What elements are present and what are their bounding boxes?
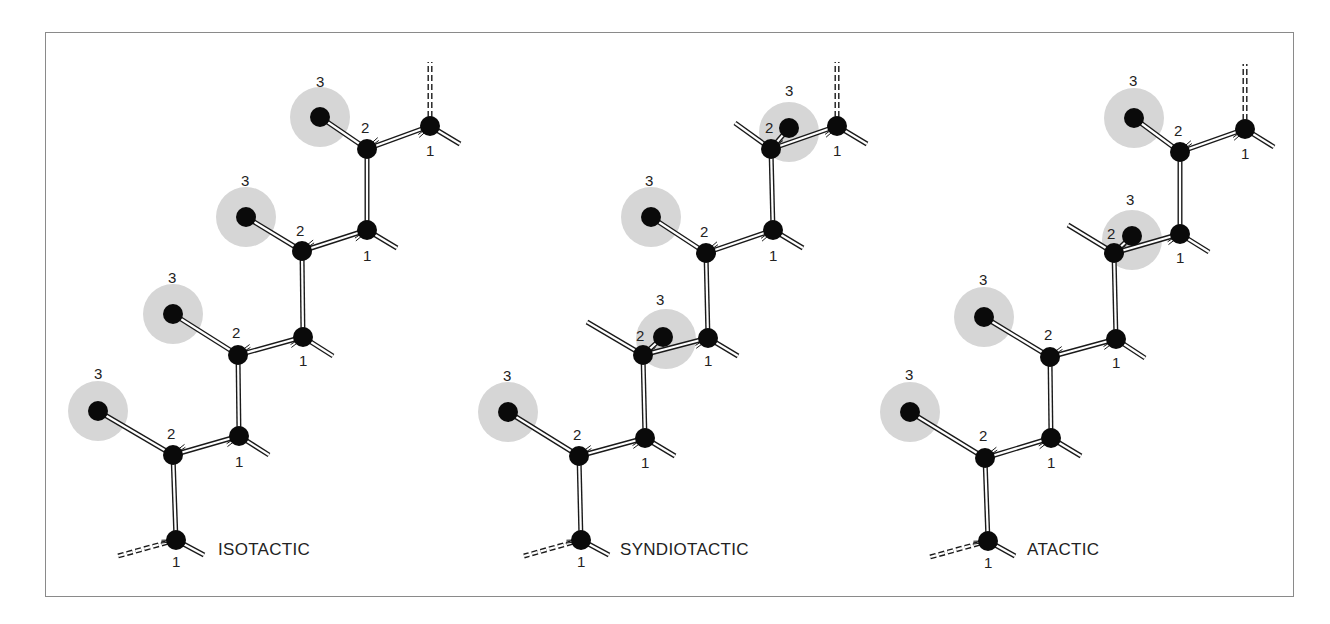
- atom-label-2: 2: [361, 119, 369, 136]
- side-group-atom: [163, 304, 183, 324]
- panel-title: SYNDIOTACTIC: [620, 540, 749, 559]
- backbone-carbon-1: [827, 116, 847, 136]
- backbone-bond: [771, 149, 773, 230]
- backbone-carbon-1: [1170, 224, 1190, 244]
- polymer-tacticity-diagram: 1231231231231ISOTACTIC 1231231231231SYND…: [0, 0, 1330, 624]
- atom-label-1: 1: [1047, 454, 1055, 471]
- atom-label-1: 1: [769, 247, 777, 264]
- atom-label-1: 1: [1176, 249, 1184, 266]
- backbone-carbon-1: [763, 220, 783, 240]
- atom-label-3: 3: [905, 366, 913, 383]
- backbone-carbon-1: [166, 530, 186, 550]
- backbone-bond: [706, 230, 773, 253]
- atom-label-3: 3: [503, 367, 511, 384]
- side-group-atom: [1124, 108, 1144, 128]
- atom-label-2: 2: [700, 223, 708, 240]
- atom-layer: [900, 108, 1255, 551]
- backbone-carbon-2: [1170, 142, 1190, 162]
- side-group-atom: [653, 327, 673, 347]
- atom-label-2: 2: [232, 324, 240, 341]
- atom-label-1: 1: [426, 142, 434, 159]
- atom-label-3: 3: [785, 82, 793, 99]
- panel-title: ATACTIC: [1027, 540, 1099, 559]
- atom-label-1: 1: [363, 247, 371, 264]
- backbone-carbon-1: [1106, 329, 1126, 349]
- backbone-carbon-1: [978, 531, 998, 551]
- atom-label-2: 2: [979, 427, 987, 444]
- backbone-carbon-1: [357, 220, 377, 240]
- atom-label-2: 2: [1174, 122, 1182, 139]
- backbone-bond: [643, 355, 645, 438]
- backbone-carbon-2: [633, 345, 653, 365]
- backbone-carbon-1: [293, 327, 313, 347]
- halo-layer: [68, 87, 350, 441]
- side-group-atom: [900, 402, 920, 422]
- backbone-bond: [706, 253, 708, 338]
- backbone-carbon-2: [357, 139, 377, 159]
- backbone-carbon-2: [761, 139, 781, 159]
- atom-label-1: 1: [641, 454, 649, 471]
- atom-label-1: 1: [1241, 145, 1249, 162]
- atom-label-1: 1: [984, 554, 992, 571]
- side-group-atom: [1122, 226, 1142, 246]
- atom-label-2: 2: [1044, 326, 1052, 343]
- atom-label-1: 1: [577, 553, 585, 570]
- atom-layer: [88, 107, 440, 550]
- atom-label-2: 2: [167, 425, 175, 442]
- backbone-bond: [579, 456, 581, 540]
- backbone-carbon-2: [292, 241, 312, 261]
- halo-layer: [880, 88, 1164, 442]
- backbone-bond: [367, 126, 430, 149]
- atom-label-1: 1: [1112, 354, 1120, 371]
- side-group-atom: [641, 207, 661, 227]
- atom-label-2: 2: [573, 426, 581, 443]
- backbone-carbon-2: [228, 345, 248, 365]
- atom-label-3: 3: [645, 172, 653, 189]
- backbone-carbon-1: [1235, 119, 1255, 139]
- atom-label-1: 1: [299, 352, 307, 369]
- bond-layer: [508, 62, 867, 556]
- side-group-atom: [779, 118, 799, 138]
- atom-label-3: 3: [241, 172, 249, 189]
- atom-label-2: 2: [636, 327, 644, 344]
- atom-label-2: 2: [765, 119, 773, 136]
- backbone-bond: [1050, 357, 1051, 438]
- atom-label-3: 3: [94, 365, 102, 382]
- backbone-bond: [173, 455, 176, 540]
- atom-label-3: 3: [656, 291, 664, 308]
- side-group-atom: [310, 107, 330, 127]
- backbone-carbon-2: [696, 243, 716, 263]
- panel-atactic: 1231231231231ATACTIC: [880, 64, 1274, 571]
- side-group-atom: [974, 307, 994, 327]
- side-group-atom: [236, 207, 256, 227]
- atom-label-1: 1: [704, 352, 712, 369]
- atom-label-3: 3: [1126, 191, 1134, 208]
- backbone-bond: [238, 355, 239, 436]
- atom-label-3: 3: [1129, 72, 1137, 89]
- backbone-bond: [1114, 253, 1116, 339]
- atom-label-1: 1: [833, 142, 841, 159]
- backbone-carbon-2: [975, 448, 995, 468]
- atom-label-2: 2: [1107, 225, 1115, 242]
- atom-label-2: 2: [296, 222, 304, 239]
- backbone-carbon-2: [569, 446, 589, 466]
- backbone-bond: [302, 230, 367, 251]
- backbone-carbon-1: [635, 428, 655, 448]
- atom-label-3: 3: [316, 73, 324, 90]
- panel-isotactic: 1231231231231ISOTACTIC: [68, 62, 460, 570]
- panel-syndiotactic: 1231231231231SYNDIOTACTIC: [478, 62, 867, 570]
- backbone-carbon-1: [1041, 428, 1061, 448]
- atom-label-3: 3: [168, 269, 176, 286]
- backbone-carbon-2: [163, 445, 183, 465]
- backbone-bond: [985, 458, 988, 541]
- atom-label-3: 3: [979, 271, 987, 288]
- side-group-atom: [88, 401, 108, 421]
- backbone-carbon-1: [571, 530, 591, 550]
- panel-title: ISOTACTIC: [218, 540, 310, 559]
- backbone-carbon-1: [229, 426, 249, 446]
- atom-label-1: 1: [172, 553, 180, 570]
- atom-label-1: 1: [235, 453, 243, 470]
- backbone-bond: [302, 251, 303, 337]
- backbone-carbon-2: [1040, 347, 1060, 367]
- backbone-carbon-1: [420, 116, 440, 136]
